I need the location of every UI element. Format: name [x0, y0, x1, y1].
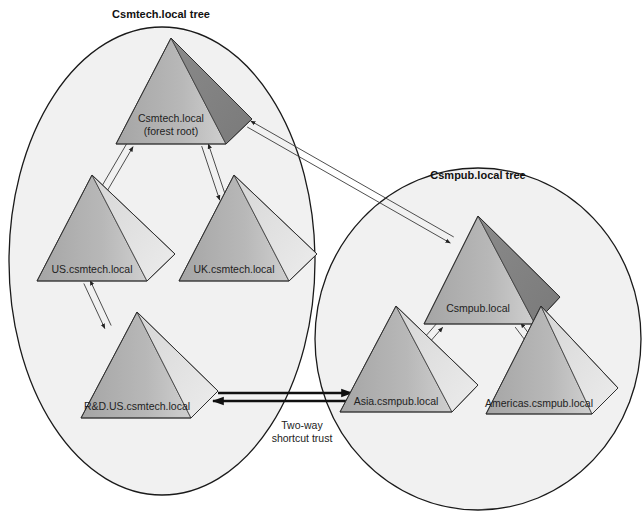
domain-label: Asia.csmpub.local [354, 395, 439, 407]
domain-label: R&D.US.csmtech.local [84, 400, 190, 412]
domain-label: Csmtech.local [138, 112, 204, 124]
domain-label: US.csmtech.local [51, 263, 132, 275]
forest-trust-diagram: Csmtech.local treeCsmpub.local tree Csmt… [0, 0, 644, 515]
domain-sublabel: (forest root) [144, 125, 198, 137]
shortcut-trust-label-line2: shortcut trust [272, 432, 333, 444]
tree-title-csmpub: Csmpub.local tree [430, 169, 525, 181]
domain-label: UK.csmtech.local [193, 263, 274, 275]
domain-label: Csmpub.local [446, 302, 510, 314]
trust-labels: Two-wayshortcut trust [272, 419, 333, 444]
domain-label: Americas.csmpub.local [485, 397, 593, 409]
tree-title-csmtech: Csmtech.local tree [112, 8, 210, 20]
shortcut-trust-label-line1: Two-way [281, 419, 323, 431]
